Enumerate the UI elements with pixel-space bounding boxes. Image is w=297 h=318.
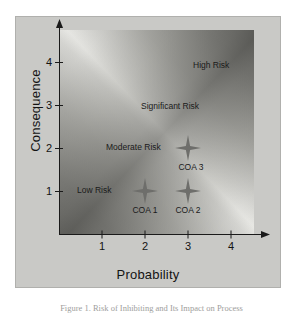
four-point-star-icon — [175, 178, 201, 204]
x-tick-label-4: 4 — [223, 240, 239, 252]
y-tick-label-1: 1 — [38, 185, 52, 197]
x-tick-label-2: 2 — [137, 240, 153, 252]
y-tick-label-4: 4 — [38, 56, 52, 68]
coa-3-marker[interactable] — [175, 135, 201, 161]
figure-caption: Figure 1. Risk of Inhibiting and Its Imp… — [18, 303, 285, 313]
coa-1-marker[interactable] — [132, 178, 158, 204]
x-tick-label-3: 3 — [180, 240, 196, 252]
coa-1-label: COA 1 — [123, 205, 167, 215]
y-tick-label-3: 3 — [38, 99, 52, 111]
zone-label-significant-risk: Significant Risk — [141, 101, 199, 111]
zone-label-low-risk: Low Risk — [77, 185, 111, 195]
zone-label-high-risk: High Risk — [193, 60, 229, 70]
coa-3-label: COA 3 — [169, 162, 213, 172]
four-point-star-icon — [175, 135, 201, 161]
plot-area: 1 2 3 4 1 2 3 4 Low Risk Moderate Risk S… — [59, 30, 254, 235]
coa-2-marker[interactable] — [175, 178, 201, 204]
x-axis-title: Probability — [16, 267, 280, 282]
risk-matrix-figure-panel: Consequence Probability 1 — [15, 16, 281, 288]
x-tick-label-1: 1 — [94, 240, 110, 252]
y-tick-label-2: 2 — [38, 142, 52, 154]
coa-2-label: COA 2 — [166, 205, 210, 215]
four-point-star-icon — [132, 178, 158, 204]
zone-label-moderate-risk: Moderate Risk — [106, 142, 161, 152]
